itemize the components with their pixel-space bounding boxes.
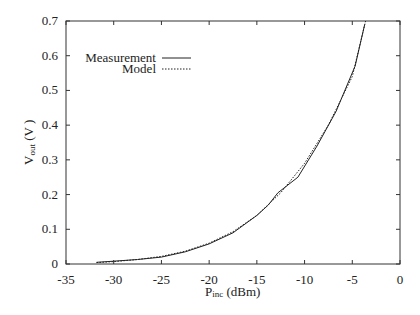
legend-label-model: Model (122, 61, 156, 76)
x-tick-label: -10 (296, 272, 313, 287)
y-tick-label: 0.4 (42, 117, 59, 132)
x-tick-label: 0 (397, 272, 404, 287)
y-tick-label: 0.7 (42, 13, 59, 28)
y-tick-label: 0.2 (42, 187, 58, 202)
legend: MeasurementModel (85, 50, 191, 76)
y-tick-label: 0.5 (42, 82, 58, 97)
x-tick-label: -5 (347, 272, 358, 287)
x-tick-label: -35 (57, 272, 74, 287)
chart: -35-30-25-20-15-10-5000.10.20.30.40.50.6… (0, 0, 420, 315)
x-tick-label: -25 (153, 272, 170, 287)
y-axis-label: Vout (V ) (21, 120, 37, 165)
y-tick-label: 0.3 (42, 152, 58, 167)
y-tick-label: 0 (52, 256, 59, 271)
y-tick-label: 0.6 (42, 48, 59, 63)
x-tick-label: -30 (105, 272, 122, 287)
y-tick-label: 0.1 (42, 221, 58, 236)
